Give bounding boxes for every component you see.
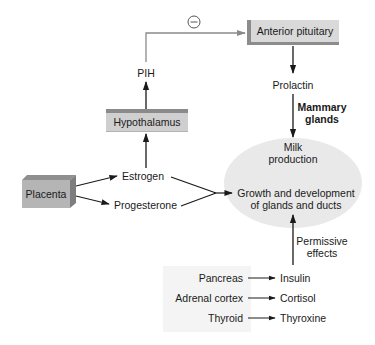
hormone-insulin: Insulin [280,272,310,284]
source-adrenal-cortex: Adrenal cortex [175,292,243,304]
placenta-box: Placenta [22,180,70,208]
hormone-cortisol: Cortisol [280,292,316,304]
anterior-pituitary-label: Anterior pituitary [257,25,333,37]
milk-production-label-line2: production [268,153,317,165]
progesterone-label: Progesterone [114,199,177,211]
growth-development-label-line2: of glands and ducts [250,199,341,211]
growth-development-label-line1: Growth and development [237,187,354,199]
mammary-glands-label-line2: glands [305,113,339,125]
hormone-thyroxine: Thyroxine [280,312,326,324]
prolactin-label: Prolactin [273,79,314,91]
estrogen-label: Estrogen [122,170,164,182]
permissive-effects-label-line1: Permissive [296,235,347,247]
source-thyroid: Thyroid [208,312,243,324]
source-pancreas: Pancreas [199,272,243,284]
placenta-label: Placenta [26,188,67,200]
hypothalamus-label: Hypothalamus [113,116,180,128]
milk-production-label-line1: Milk [284,141,303,153]
permissive-effects-label-line2: effects [307,247,338,259]
mammary-glands-label-line1: Mammary [297,101,346,113]
hypothalamus-box: Hypothalamus [106,109,188,132]
pih-label: PIH [137,67,155,79]
anterior-pituitary-box: Anterior pituitary [247,20,339,45]
